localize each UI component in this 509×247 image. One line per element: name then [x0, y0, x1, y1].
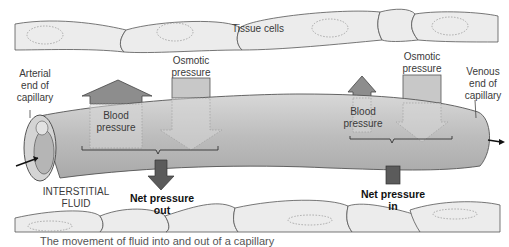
venous-end-line-2: end of: [460, 78, 506, 90]
blood-pressure-right-label: Blood pressure: [338, 106, 388, 130]
net-pressure-in-arrow: [386, 166, 400, 184]
osmotic-right-line-1: Osmotic: [397, 51, 447, 63]
arterial-end-line-3: capillary: [14, 92, 56, 104]
venous-end-line-3: capillary: [460, 90, 506, 102]
blood-left-line-1: Blood: [90, 110, 142, 122]
net-pressure-in-label: Net pressure in: [355, 188, 431, 212]
figure-caption: The movement of fluid into and out of a …: [40, 235, 274, 247]
osmotic-left-line-2: pressure: [166, 67, 216, 79]
venous-end-label: Venous end of capillary: [460, 66, 506, 102]
arterial-end-line-2: end of: [14, 80, 56, 92]
tissue-cells-label: Tissue cells: [218, 23, 298, 35]
osmotic-pressure-right-label: Osmotic pressure: [397, 51, 447, 75]
osmotic-pressure-box-left: [172, 78, 210, 98]
arterial-end-label: Arterial end of capillary: [14, 68, 56, 104]
net-out-line-2: out: [124, 204, 200, 216]
interstitial-fluid-label: INTERSTITIAL FLUID: [36, 186, 116, 210]
net-in-line-1: Net pressure: [355, 188, 431, 200]
net-out-line-1: Net pressure: [124, 192, 200, 204]
blood-right-line-2: pressure: [338, 118, 388, 130]
osmotic-pressure-left-label: Osmotic pressure: [166, 55, 216, 79]
net-pressure-out-label: Net pressure out: [124, 192, 200, 216]
net-in-line-2: in: [355, 200, 431, 212]
arterial-end-line-1: Arterial: [14, 68, 56, 80]
venous-end-line-1: Venous: [460, 66, 506, 78]
interstitial-line-1: INTERSTITIAL: [36, 186, 116, 198]
blood-left-line-2: pressure: [90, 122, 142, 134]
interstitial-line-2: FLUID: [36, 198, 116, 210]
blood-right-line-1: Blood: [338, 106, 388, 118]
blood-pressure-left-label: Blood pressure: [90, 110, 142, 134]
blood-pressure-arrow-left: [82, 80, 152, 104]
osmotic-right-line-2: pressure: [397, 63, 447, 75]
osmotic-left-line-1: Osmotic: [166, 55, 216, 67]
